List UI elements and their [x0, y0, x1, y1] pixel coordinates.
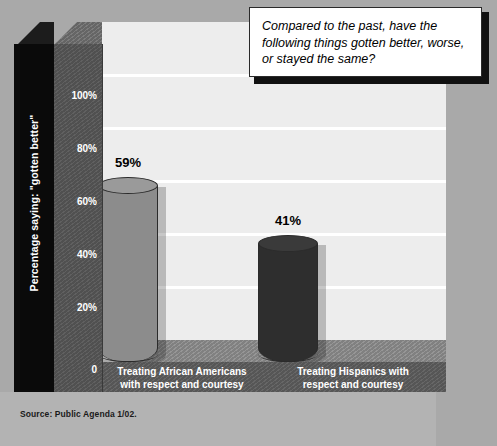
bar-bottom-edge: [98, 346, 158, 362]
category-label-line2: with respect and courtesy: [82, 379, 282, 392]
bar-value-label-2: 41%: [258, 213, 318, 228]
y-axis-title: Percentage saying: "gotten better": [28, 43, 40, 363]
y-tick-20: 20%: [77, 302, 97, 313]
callout-text: Compared to the past, have the following…: [250, 8, 481, 68]
y-tick-100: 100%: [71, 90, 97, 101]
axis-title-panel: Percentage saying: "gotten better": [14, 44, 54, 392]
source-note: Source: Public Agenda 1/02.: [20, 409, 137, 419]
y-tick-80: 80%: [77, 143, 97, 154]
chart-page: 59% 41% Treating African Americans with …: [0, 0, 497, 446]
bar-body: [98, 186, 158, 362]
category-label-african-americans: Treating African Americans with respect …: [82, 366, 282, 391]
y-tick-60: 60%: [77, 196, 97, 207]
y-axis-wall: 100% 80% 60% 40% 20% 0: [54, 44, 102, 392]
bar-hispanics[interactable]: [258, 235, 318, 362]
bar-body: [258, 244, 318, 362]
bar-bottom-edge: [258, 346, 318, 362]
question-callout: Compared to the past, have the following…: [249, 7, 482, 77]
bar-value-label-1: 59%: [98, 155, 158, 170]
category-label-line1: Treating African Americans: [82, 366, 282, 379]
y-axis-bevel: [102, 44, 103, 392]
y-tick-40: 40%: [77, 249, 97, 260]
bar-top-cap: [98, 177, 158, 194]
bar-top-cap: [258, 235, 318, 252]
y-axis-wall-top: [54, 22, 102, 45]
gridline-80: [102, 127, 446, 130]
bar-african-americans[interactable]: [98, 177, 158, 362]
category-label-line1: Treating Hispanics with: [268, 366, 438, 379]
source-plate: [0, 392, 436, 446]
category-label-hispanics: Treating Hispanics with respect and cour…: [268, 366, 438, 391]
category-label-line2: respect and courtesy: [268, 379, 438, 392]
